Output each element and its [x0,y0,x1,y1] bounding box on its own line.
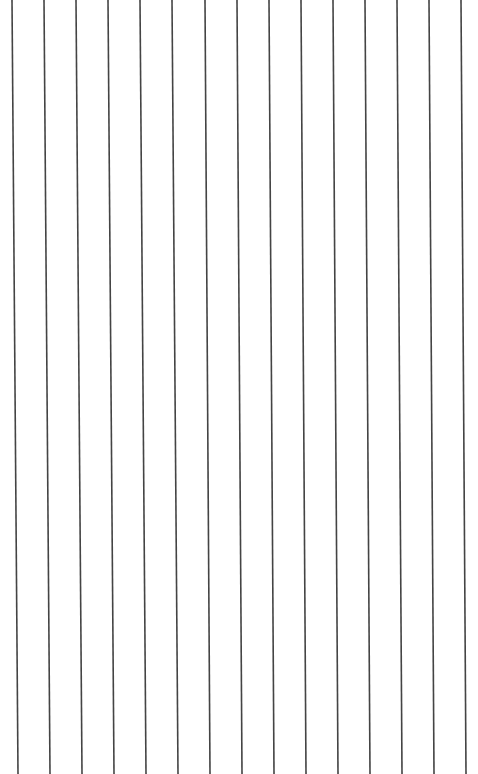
rule-line [365,0,370,774]
vertical-rule-lines [0,0,478,774]
rule-line [333,0,338,774]
lined-page [0,0,478,774]
rule-line [397,0,402,774]
rule-line [172,0,178,774]
rule-line [461,0,466,774]
rule-line [44,0,50,774]
rule-line [205,0,210,774]
rule-line [237,0,242,774]
rule-line [12,0,18,774]
rule-line [140,0,146,774]
rule-line [301,0,306,774]
rule-line [76,0,82,774]
rule-line [429,0,434,774]
rule-line [108,0,114,774]
rule-line [269,0,274,774]
